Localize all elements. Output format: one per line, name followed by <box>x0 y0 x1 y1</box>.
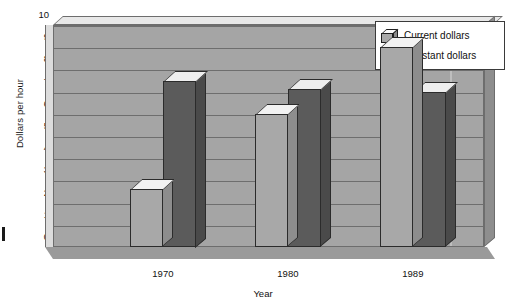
y-tick-label: 10 <box>20 10 49 20</box>
x-axis-tick-labels: 197019801989 <box>53 268 503 282</box>
x-tick-label: 1989 <box>378 268 448 279</box>
x-tick-label: 1980 <box>253 268 323 279</box>
bar-1980-current <box>255 114 288 247</box>
x-tick-label: 1970 <box>128 268 198 279</box>
scan-artifact-mark <box>2 227 5 241</box>
bar-1989-current <box>380 47 413 247</box>
x-axis-title: Year <box>53 288 473 299</box>
bar-1970-current <box>130 189 163 247</box>
bar-chart-figure: Dollars per hour 012345678910 1970198019… <box>0 0 515 304</box>
